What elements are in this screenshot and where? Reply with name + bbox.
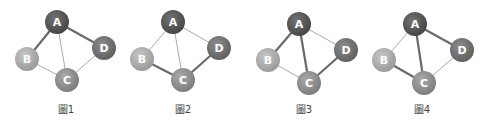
node-d: D: [92, 36, 116, 60]
node-d: D: [334, 38, 358, 62]
figure-4: ABCD圖4: [372, 12, 474, 115]
figure-caption: 圖2: [175, 104, 191, 115]
figure-1: ABCD圖1: [15, 10, 116, 115]
node-label: D: [99, 42, 108, 55]
node-label: A: [53, 16, 62, 29]
node-label: D: [214, 42, 223, 55]
node-label: B: [23, 53, 31, 66]
node-label: B: [380, 54, 388, 67]
node-b: B: [256, 48, 280, 72]
node-a: A: [403, 12, 427, 36]
node-b: B: [130, 47, 154, 71]
node-label: D: [457, 44, 466, 57]
node-label: C: [63, 74, 71, 87]
node-d: D: [207, 36, 231, 60]
node-label: A: [295, 18, 304, 31]
node-label: B: [138, 53, 146, 66]
graph-diagram: ABCD圖1ABCD圖2ABCD圖3ABCD圖4: [0, 0, 486, 123]
figure-caption: 圖3: [296, 104, 312, 115]
node-b: B: [15, 47, 39, 71]
node-label: A: [169, 16, 178, 29]
node-label: C: [420, 77, 428, 90]
node-a: A: [287, 12, 311, 36]
node-label: D: [341, 44, 350, 57]
figure-caption: 圖4: [414, 104, 430, 115]
node-a: A: [161, 10, 185, 34]
figure-3: ABCD圖3: [256, 12, 358, 115]
node-c: C: [297, 71, 321, 95]
node-label: C: [305, 77, 313, 90]
node-b: B: [372, 48, 396, 72]
node-d: D: [450, 38, 474, 62]
node-c: C: [412, 71, 436, 95]
figure-caption: 圖1: [58, 104, 74, 115]
node-label: B: [264, 54, 272, 67]
node-c: C: [171, 68, 195, 92]
node-label: A: [411, 18, 420, 31]
node-c: C: [55, 68, 79, 92]
figure-2: ABCD圖2: [130, 10, 231, 115]
node-label: C: [179, 74, 187, 87]
node-a: A: [45, 10, 69, 34]
